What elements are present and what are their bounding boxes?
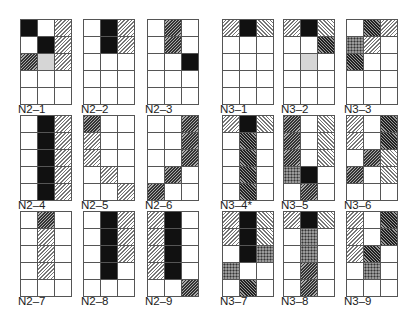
grid-cell: [21, 229, 37, 245]
grid-cell: [223, 88, 239, 104]
grid-cell: [257, 71, 273, 87]
grid-cell: [182, 212, 198, 228]
grid-cell: [21, 280, 37, 296]
grid-cell: [284, 184, 300, 200]
grid-cell: [21, 71, 37, 87]
grid-cell: [21, 54, 37, 70]
grid-cell: [223, 229, 239, 245]
grid-cell: [148, 229, 164, 245]
grid-cell: [55, 280, 71, 296]
grid-cell: [101, 150, 117, 166]
grid-cell: [223, 263, 239, 279]
grid-cell: [318, 54, 334, 70]
grid-cell: [364, 263, 380, 279]
grid-cell: [21, 263, 37, 279]
grid-cell: [240, 229, 256, 245]
grid-cell: [240, 280, 256, 296]
grid-cell: [364, 212, 380, 228]
grid-cell: [284, 71, 300, 87]
grid-cell: [101, 88, 117, 104]
grid-cell: [364, 71, 380, 87]
grid-cell: [55, 150, 71, 166]
grid-cell: [284, 263, 300, 279]
grid-cell: [55, 167, 71, 183]
grid-cell: [381, 184, 397, 200]
grid-cell: [347, 150, 363, 166]
grid-cell: [55, 116, 71, 132]
grid-cell: [38, 37, 54, 53]
grid-cell: [118, 37, 134, 53]
grid-cell: [84, 37, 100, 53]
panel-label: N2–3: [145, 103, 173, 115]
grid-cell: [284, 212, 300, 228]
grid-cell: [101, 71, 117, 87]
grid-cell: [118, 71, 134, 87]
grid-n2-7: [20, 211, 72, 297]
grid-cell: [381, 280, 397, 296]
grid-cell: [165, 54, 181, 70]
grid-cell: [101, 229, 117, 245]
grid-cell: [257, 212, 273, 228]
grid-cell: [257, 37, 273, 53]
grid-cell: [38, 229, 54, 245]
grid-cell: [347, 116, 363, 132]
grid-cell: [165, 150, 181, 166]
grid-cell: [347, 280, 363, 296]
grid-cell: [381, 88, 397, 104]
grid-cell: [38, 88, 54, 104]
grid-cell: [347, 184, 363, 200]
grid-cell: [101, 212, 117, 228]
grid-cell: [84, 184, 100, 200]
grid-cell: [55, 184, 71, 200]
grid-cell: [364, 229, 380, 245]
grid-cell: [347, 20, 363, 36]
grid-cell: [148, 150, 164, 166]
grid-cell: [284, 229, 300, 245]
grid-cell: [318, 71, 334, 87]
grid-cell: [240, 54, 256, 70]
grid-cell: [21, 88, 37, 104]
grid-cell: [182, 54, 198, 70]
grid-cell: [38, 167, 54, 183]
grid-cell: [182, 116, 198, 132]
grid-cell: [118, 116, 134, 132]
grid-cell: [223, 212, 239, 228]
grid-cell: [318, 88, 334, 104]
grid-cell: [364, 167, 380, 183]
panel-label: N3–3: [344, 103, 372, 115]
grid-n3-7: [222, 211, 274, 297]
grid-cell: [165, 229, 181, 245]
grid-cell: [240, 150, 256, 166]
grid-cell: [223, 133, 239, 149]
grid-cell: [347, 246, 363, 262]
grid-cell: [301, 71, 317, 87]
grid-cell: [55, 71, 71, 87]
grid-cell: [381, 212, 397, 228]
grid-cell: [318, 37, 334, 53]
grid-cell: [284, 133, 300, 149]
grid-cell: [118, 280, 134, 296]
grid-cell: [101, 20, 117, 36]
grid-cell: [55, 212, 71, 228]
grid-cell: [21, 20, 37, 36]
grid-cell: [118, 88, 134, 104]
grid-cell: [84, 212, 100, 228]
grid-cell: [101, 280, 117, 296]
grid-cell: [364, 184, 380, 200]
grid-cell: [182, 167, 198, 183]
grid-cell: [284, 280, 300, 296]
grid-cell: [38, 150, 54, 166]
panel-label: N3–4*: [220, 199, 252, 211]
grid-cell: [240, 37, 256, 53]
grid-cell: [284, 167, 300, 183]
grid-cell: [257, 150, 273, 166]
grid-cell: [182, 184, 198, 200]
panel-label: N2–9: [145, 295, 173, 307]
grid-cell: [347, 54, 363, 70]
grid-cell: [347, 167, 363, 183]
grid-cell: [301, 280, 317, 296]
grid-cell: [240, 246, 256, 262]
grid-cell: [347, 71, 363, 87]
grid-n2-1: [20, 19, 72, 105]
grid-cell: [257, 167, 273, 183]
